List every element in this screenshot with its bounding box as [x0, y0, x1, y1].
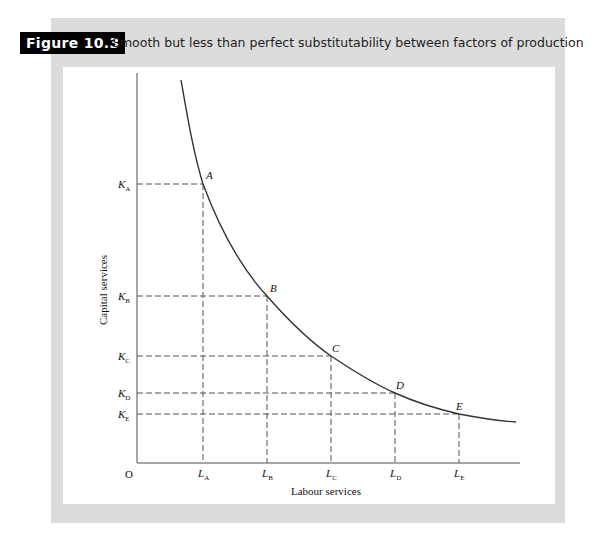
point-label-b: B [270, 282, 277, 294]
point-label-d: D [395, 379, 404, 391]
point-label-a: A [205, 169, 213, 181]
y-axis-title: Capital services [97, 255, 109, 325]
x-tick-labels: LA LB LC LD LE [197, 467, 464, 482]
x-axis-title: Labour services [291, 485, 361, 497]
svg-text:KC: KC [117, 350, 130, 365]
isoquant-curve [181, 80, 516, 422]
svg-text:LB: LB [261, 467, 273, 482]
origin-label: O [125, 468, 133, 480]
svg-text:KD: KD [117, 387, 130, 402]
svg-text:LD: LD [389, 467, 401, 482]
svg-text:LA: LA [197, 467, 209, 482]
point-label-c: C [332, 342, 340, 354]
svg-text:LC: LC [325, 467, 337, 482]
svg-text:KB: KB [117, 290, 130, 305]
svg-text:LE: LE [453, 467, 464, 482]
point-label-e: E [455, 400, 463, 412]
y-tick-labels: KA KB KC KD KE [117, 178, 130, 423]
svg-text:KA: KA [117, 178, 130, 193]
projection-lines [137, 184, 459, 463]
svg-text:KE: KE [117, 408, 130, 423]
isoquant-chart: A B C D E KA KB KC KD KE LA LB LC LD LE … [0, 0, 595, 553]
